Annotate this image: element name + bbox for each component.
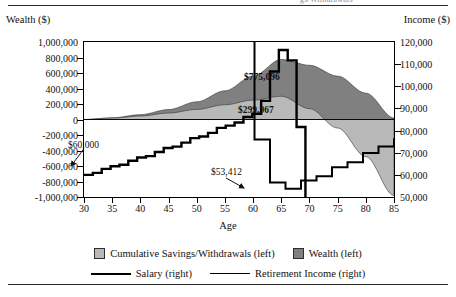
x-tick-label: 40 bbox=[125, 203, 155, 214]
legend-item-retirement: Retirement Income (right) bbox=[210, 266, 365, 281]
legend-label-savings: Cumulative Savings/Withdrawals (left) bbox=[110, 246, 275, 261]
wealth-swatch-icon bbox=[293, 248, 304, 259]
salary-line-icon bbox=[91, 273, 131, 275]
x-axis-title: Age bbox=[0, 220, 456, 231]
legend-label-retirement: Retirement Income (right) bbox=[255, 266, 365, 281]
x-tick-label: 35 bbox=[97, 203, 127, 214]
x-tick-mark bbox=[394, 198, 395, 203]
right-tick-label: 110,000 bbox=[400, 59, 432, 70]
x-tick-mark bbox=[309, 198, 310, 203]
left-tick-label: -400,000 bbox=[2, 145, 78, 156]
right-tick-mark bbox=[395, 108, 401, 109]
x-tick-label: 80 bbox=[351, 203, 381, 214]
right-axis-title: Income ($) bbox=[404, 14, 450, 25]
x-tick-mark bbox=[253, 198, 254, 203]
x-tick-mark bbox=[338, 198, 339, 203]
x-tick-label: 30 bbox=[69, 203, 99, 214]
left-tick-label: 0 bbox=[2, 114, 78, 125]
right-tick-mark bbox=[395, 64, 401, 65]
x-tick-label: 50 bbox=[182, 203, 212, 214]
x-tick-mark bbox=[140, 198, 141, 203]
x-tick-label: 45 bbox=[154, 203, 184, 214]
x-tick-label: 85 bbox=[379, 203, 409, 214]
x-tick-label: 55 bbox=[210, 203, 240, 214]
x-tick-label: 70 bbox=[294, 203, 324, 214]
x-tick-label: 60 bbox=[238, 203, 268, 214]
retirement-wealth-chart-figure: gs/Withdrawals Wealth ($) Income ($) 1,0… bbox=[0, 0, 456, 297]
x-tick-mark bbox=[366, 198, 367, 203]
left-tick-label: 1,000,000 bbox=[2, 37, 78, 48]
savings-swatch-icon bbox=[94, 248, 105, 259]
wealth-peak-label: $775,096 bbox=[244, 72, 280, 82]
x-tick-label: 75 bbox=[323, 203, 353, 214]
left-axis-title: Wealth ($) bbox=[6, 14, 50, 25]
left-tick-label: 200,000 bbox=[2, 99, 78, 110]
retirement-line-icon bbox=[210, 273, 250, 274]
right-tick-label: 90,000 bbox=[400, 103, 428, 114]
right-tick-label: 70,000 bbox=[400, 147, 428, 158]
left-tick-label: 400,000 bbox=[2, 83, 78, 94]
left-tick-label: -1,000,000 bbox=[2, 192, 78, 203]
right-tick-mark bbox=[395, 131, 401, 132]
right-tick-label: 100,000 bbox=[400, 81, 433, 92]
left-tick-label: -200,000 bbox=[2, 130, 78, 141]
right-tick-label: 120,000 bbox=[400, 37, 433, 48]
right-tick-mark bbox=[395, 86, 401, 87]
x-tick-mark bbox=[197, 198, 198, 203]
start-salary-label: $60,000 bbox=[68, 140, 99, 150]
legend-row-areas: Cumulative Savings/Withdrawals (left) We… bbox=[0, 246, 456, 261]
legend-label-wealth: Wealth (left) bbox=[309, 246, 362, 261]
savings-peak-label: $299,967 bbox=[238, 105, 274, 115]
legend-item-savings: Cumulative Savings/Withdrawals (left) bbox=[94, 246, 275, 261]
right-tick-label: 80,000 bbox=[400, 125, 428, 136]
left-tick-label: -600,000 bbox=[2, 161, 78, 172]
legend-item-salary: Salary (right) bbox=[91, 266, 192, 281]
chart-legend: Cumulative Savings/Withdrawals (left) We… bbox=[0, 246, 456, 281]
x-tick-label: 65 bbox=[266, 203, 296, 214]
right-tick-mark bbox=[395, 175, 401, 176]
right-tick-mark bbox=[395, 153, 401, 154]
legend-row-lines: Salary (right) Retirement Income (right) bbox=[0, 266, 456, 281]
left-tick-label: -800,000 bbox=[2, 176, 78, 187]
bottom-divider bbox=[8, 284, 448, 285]
x-tick-mark bbox=[84, 198, 85, 203]
x-tick-mark bbox=[169, 198, 170, 203]
x-tick-mark bbox=[281, 198, 282, 203]
top-divider bbox=[8, 5, 448, 6]
legend-label-salary: Salary (right) bbox=[136, 266, 192, 281]
x-tick-mark bbox=[225, 198, 226, 203]
right-tick-label: 50,000 bbox=[400, 192, 428, 203]
x-tick-mark bbox=[112, 198, 113, 203]
caption-tail-text: gs/Withdrawals bbox=[300, 0, 450, 4]
legend-item-wealth: Wealth (left) bbox=[293, 246, 362, 261]
right-tick-label: 60,000 bbox=[400, 169, 428, 180]
left-tick-label: 600,000 bbox=[2, 68, 78, 79]
left-tick-label: 800,000 bbox=[2, 52, 78, 63]
retirement-income-label: $53,412 bbox=[211, 167, 242, 177]
